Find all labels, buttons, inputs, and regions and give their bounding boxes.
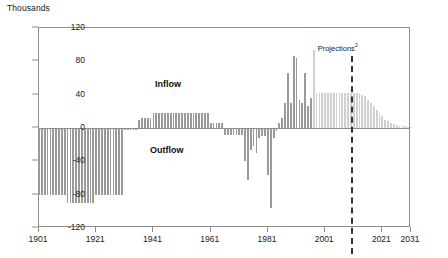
bar <box>313 50 315 128</box>
bar <box>301 103 303 128</box>
x-axis-tick-label: 1901 <box>29 234 48 244</box>
bar <box>161 113 163 128</box>
bar <box>324 93 326 128</box>
bar <box>58 128 60 195</box>
projections-annotation: Projections2 <box>318 42 358 53</box>
x-axis-tick-mark <box>210 227 211 232</box>
bar <box>370 103 372 128</box>
x-axis-tick-mark <box>95 227 96 232</box>
bar <box>281 118 283 128</box>
bar <box>290 103 292 128</box>
bar <box>244 128 246 161</box>
y-axis-tick-mark <box>32 27 38 28</box>
bar <box>64 128 66 195</box>
x-axis-tick-label: 1921 <box>86 234 105 244</box>
bar <box>296 58 298 128</box>
bar <box>155 113 157 128</box>
bar <box>267 128 269 175</box>
bar <box>230 128 232 135</box>
bar <box>184 113 186 128</box>
bar <box>304 73 306 128</box>
projection-divider-line <box>351 56 353 254</box>
bar <box>247 128 249 180</box>
bar <box>224 128 226 135</box>
y-axis-tick-label: 0 <box>80 122 85 132</box>
bar <box>44 128 46 195</box>
bar <box>167 113 169 128</box>
bar <box>307 106 309 128</box>
bar <box>356 93 358 128</box>
bar <box>113 128 115 195</box>
inflow-label: Inflow <box>155 79 181 89</box>
y-axis-tick-mark <box>32 127 38 128</box>
bar <box>121 128 123 195</box>
y-axis-tick-label: 40 <box>76 89 85 99</box>
bar <box>178 113 180 128</box>
bar <box>204 113 206 128</box>
bar <box>310 98 312 128</box>
bar <box>52 128 54 195</box>
bar <box>373 106 375 128</box>
x-axis-tick-label: 2031 <box>401 234 420 244</box>
bar <box>67 128 69 203</box>
bar <box>319 93 321 128</box>
y-axis-tick-label: 80 <box>76 55 85 65</box>
bar <box>92 128 94 203</box>
bar <box>379 113 381 128</box>
bar <box>164 113 166 128</box>
y-axis-tick-mark <box>32 93 38 94</box>
bar <box>175 113 177 128</box>
bar <box>330 93 332 128</box>
bar <box>359 93 361 128</box>
bar <box>336 93 338 128</box>
bar <box>55 128 57 195</box>
zero-baseline <box>39 128 409 129</box>
y-axis-tick-mark <box>32 160 38 161</box>
x-axis-tick-mark <box>267 227 268 232</box>
bar <box>158 113 160 128</box>
x-axis-tick-label: 2021 <box>372 234 391 244</box>
bar <box>376 110 378 128</box>
y-axis-tick-mark <box>32 193 38 194</box>
y-axis-tick-label: -120 <box>68 222 85 232</box>
bar <box>87 128 89 203</box>
x-axis-tick-mark <box>381 227 382 232</box>
bar <box>238 128 240 135</box>
bar <box>270 128 272 208</box>
bar <box>104 128 106 195</box>
bar <box>38 128 40 195</box>
bar <box>261 128 263 136</box>
y-axis-tick-mark <box>32 60 38 61</box>
bar <box>367 100 369 128</box>
bar <box>101 128 103 195</box>
bar <box>273 128 275 138</box>
bar <box>195 113 197 128</box>
bar <box>361 95 363 128</box>
bar <box>344 93 346 128</box>
y-axis-tick-label: -80 <box>73 189 85 199</box>
x-axis-tick-mark <box>38 227 39 232</box>
bar <box>258 128 260 138</box>
bar <box>241 128 243 135</box>
bar <box>364 96 366 128</box>
bar <box>170 113 172 128</box>
bar <box>153 113 155 128</box>
bar <box>187 113 189 128</box>
bar <box>173 113 175 128</box>
bar <box>147 118 149 128</box>
bar <box>118 128 120 195</box>
projections-annotation-text: Projections <box>318 44 355 53</box>
bar <box>110 128 112 195</box>
bar <box>410 127 412 128</box>
bar <box>250 128 252 150</box>
bar <box>181 113 183 128</box>
bar <box>70 128 72 203</box>
bar <box>333 93 335 128</box>
bar <box>90 128 92 203</box>
bar <box>316 93 318 128</box>
bar <box>115 128 117 195</box>
y-axis-unit-label: Thousands <box>7 3 50 13</box>
x-axis-tick-mark <box>324 227 325 232</box>
bar <box>256 128 258 153</box>
bar <box>321 93 323 128</box>
